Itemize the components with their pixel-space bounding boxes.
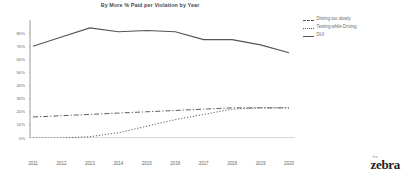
y-tick-label: 10% xyxy=(8,122,25,127)
x-tick-label: 2016 xyxy=(162,161,188,166)
brand-name: zebra xyxy=(370,158,400,171)
brand-logo: the zebra xyxy=(370,155,400,171)
chart-svg xyxy=(29,20,295,138)
y-tick-label: 40% xyxy=(8,83,25,88)
x-tick-label: 2020 xyxy=(276,161,302,166)
legend-label: Texting while Driving xyxy=(317,24,357,29)
legend-item[interactable]: Driving too slowly xyxy=(303,16,403,23)
y-tick-label: 30% xyxy=(8,96,25,101)
x-tick-label: 2019 xyxy=(248,161,274,166)
chart-figure: By More % Paid per Violation by Year Dri… xyxy=(0,0,406,176)
legend-item[interactable]: DUI xyxy=(303,32,403,39)
y-tick-label: 50% xyxy=(8,70,25,75)
legend-swatch-dashdot-icon xyxy=(303,18,314,23)
x-tick-label: 2015 xyxy=(134,161,160,166)
y-tick-label: 70% xyxy=(8,44,25,49)
y-tick-label: 20% xyxy=(8,109,25,114)
x-tick-label: 2011 xyxy=(20,161,46,166)
chart-legend: Driving too slowlyTexting while DrivingD… xyxy=(303,16,403,40)
series-line xyxy=(33,108,289,117)
data-series xyxy=(33,28,289,138)
plot-area: 0%10%20%30%40%50%60%70%80% 2011201220132… xyxy=(29,20,295,138)
legend-swatch-solid-icon xyxy=(303,34,314,39)
axis-lines xyxy=(30,20,295,138)
y-tick-label: 60% xyxy=(8,57,25,62)
chart-title: By More % Paid per Violation by Year xyxy=(0,2,300,8)
x-tick-label: 2014 xyxy=(105,161,131,166)
y-tick-label: 0% xyxy=(8,136,25,141)
legend-label: DUI xyxy=(317,32,325,37)
series-line xyxy=(33,28,289,53)
legend-label: Driving too slowly xyxy=(317,16,351,21)
x-tick-label: 2017 xyxy=(191,161,217,166)
legend-swatch-dotted-icon xyxy=(303,26,314,31)
x-tick-label: 2018 xyxy=(219,161,245,166)
series-line xyxy=(33,108,289,138)
x-tick-label: 2012 xyxy=(48,161,74,166)
x-tick-label: 2013 xyxy=(77,161,103,166)
legend-item[interactable]: Texting while Driving xyxy=(303,24,403,31)
y-tick-label: 80% xyxy=(8,31,25,36)
